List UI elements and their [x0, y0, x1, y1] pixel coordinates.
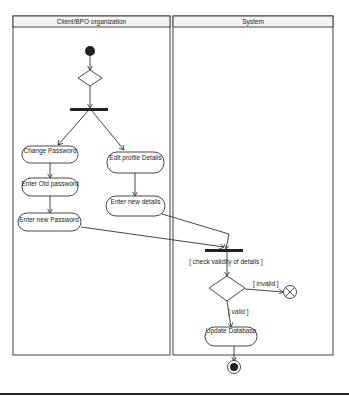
- initial-node: [85, 46, 95, 56]
- activity-diagram: Client/BPO organization System Change Pa…: [0, 0, 349, 401]
- decision-node: [78, 70, 102, 86]
- guard-invalid: [ invalid ]: [253, 280, 279, 288]
- svg-text:Change Password: Change Password: [23, 147, 76, 155]
- guard-check-validity: [ check validity of details ]: [189, 258, 263, 266]
- action-update-database: Update Database: [205, 327, 257, 346]
- svg-text:Enter Old password: Enter Old password: [21, 180, 78, 188]
- guard-valid: [ valid ]: [228, 308, 249, 316]
- flow-final-node: [284, 286, 297, 299]
- action-enter-new-details: Enter new details: [106, 196, 165, 216]
- swimlane-system-title: System: [242, 18, 264, 26]
- svg-text:Enter new details: Enter new details: [111, 198, 162, 205]
- svg-text:Update Database: Update Database: [206, 327, 257, 335]
- svg-text:Edit profile Details: Edit profile Details: [109, 154, 162, 162]
- svg-text:Enter new Password: Enter new Password: [19, 216, 79, 223]
- swimlane-client-title: Client/BPO organization: [57, 18, 127, 26]
- swimlane-system: System: [173, 16, 333, 355]
- action-enter-new-password: Enter new Password: [18, 213, 81, 231]
- action-change-password: Change Password: [22, 146, 78, 163]
- action-edit-profile-details: Edit profile Details: [107, 152, 164, 173]
- validity-decision-node: [209, 276, 245, 301]
- activity-final-node: [228, 361, 241, 374]
- action-enter-old-password: Enter Old password: [21, 178, 78, 196]
- join-bar: [205, 249, 243, 252]
- fork-bar: [70, 108, 108, 111]
